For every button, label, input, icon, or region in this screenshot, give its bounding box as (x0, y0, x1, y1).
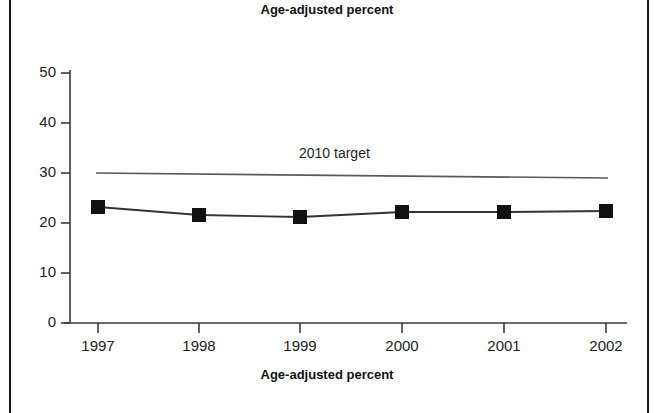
data-point-marker (192, 208, 206, 222)
target-reference-line (96, 173, 608, 178)
chart-figure: Age-adjusted percent (0, 0, 654, 413)
data-point-marker (395, 205, 409, 219)
y-tick-label: 40 (12, 113, 56, 130)
data-point-marker (91, 200, 105, 214)
x-tick-marks (98, 323, 606, 333)
data-point-marker (599, 204, 613, 218)
data-point-marker (293, 210, 307, 224)
x-tick-label: 2000 (367, 337, 437, 354)
y-tick-label: 20 (12, 213, 56, 230)
x-tick-label: 2001 (469, 337, 539, 354)
data-series-line (98, 207, 606, 217)
y-tick-label: 50 (12, 63, 56, 80)
x-tick-label: 1999 (265, 337, 335, 354)
x-tick-label: 1997 (63, 337, 133, 354)
data-point-marker (497, 205, 511, 219)
x-tick-label: 2002 (571, 337, 641, 354)
x-tick-label: 1998 (164, 337, 234, 354)
y-tick-marks (61, 73, 70, 323)
y-tick-label: 10 (12, 263, 56, 280)
x-axis-title: Age-adjusted percent (0, 367, 654, 382)
y-tick-label: 0 (12, 313, 56, 330)
y-tick-label: 30 (12, 163, 56, 180)
target-annotation-label: 2010 target (299, 145, 370, 161)
plot-area: 50 40 30 20 10 0 1997 1998 1999 2000 200… (0, 0, 654, 413)
